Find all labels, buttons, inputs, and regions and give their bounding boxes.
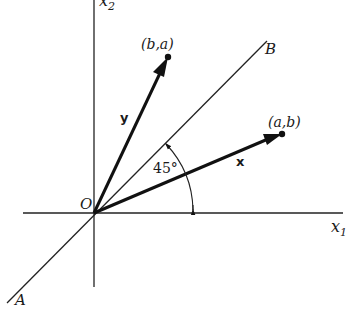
angle-label: 45° — [153, 160, 178, 176]
line-label-a: A — [13, 291, 26, 309]
vector-x-arrowhead-icon — [263, 134, 282, 145]
line-ab — [7, 41, 267, 303]
vector-x-tip-dot — [279, 131, 285, 137]
reflection-diagram: x2 x1 O B A (b,a) (a,b) y x 45° — [0, 0, 352, 321]
vector-x-label: x — [236, 154, 245, 169]
x2-axis-label: x2 — [99, 0, 115, 13]
vector-y-arrowhead-icon — [153, 57, 168, 77]
origin-label: O — [80, 195, 92, 213]
vector-x — [94, 139, 268, 213]
vector-y-tip-label: (b,a) — [141, 36, 174, 52]
x1-axis-label: x1 — [331, 217, 347, 239]
vector-x-tip-label: (a,b) — [268, 114, 301, 130]
vector-y — [94, 71, 161, 213]
line-label-b: B — [264, 40, 276, 58]
vector-y-tip-dot — [165, 54, 171, 60]
vector-y-label: y — [120, 110, 129, 125]
